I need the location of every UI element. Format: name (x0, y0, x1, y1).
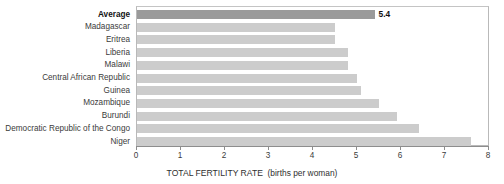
bar (137, 112, 397, 121)
category-label: Niger (110, 137, 130, 146)
category-label: Democratic Republic of the Congo (5, 124, 130, 133)
x-tick-mark (180, 146, 181, 150)
x-axis: 012345678 (136, 146, 489, 147)
x-tick-mark (488, 146, 489, 150)
x-tick-mark (268, 146, 269, 150)
bar (137, 86, 361, 95)
x-tick-mark (356, 146, 357, 150)
bar (137, 124, 419, 133)
category-label: Average (98, 10, 130, 19)
bar (137, 48, 348, 57)
x-tick-mark (224, 146, 225, 150)
plot-area: 5.4 (136, 6, 489, 146)
x-tick-label: 6 (398, 151, 403, 161)
category-label: Guinea (104, 86, 130, 95)
category-label: Eritrea (106, 35, 130, 44)
category-axis-labels: AverageMadagascarEritreaLiberiaMalawiCen… (0, 6, 133, 146)
x-tick-label: 1 (178, 151, 183, 161)
x-tick-label: 3 (266, 151, 271, 161)
x-axis-title: TOTAL FERTILITY RATE (births per woman) (0, 168, 504, 178)
category-label: Central African Republic (42, 73, 130, 82)
category-label: Madagascar (85, 22, 130, 31)
bar (137, 61, 348, 70)
x-tick-mark (444, 146, 445, 150)
x-tick-label: 5 (354, 151, 359, 161)
category-label: Liberia (105, 48, 130, 57)
fertility-rate-bar-chart: AverageMadagascarEritreaLiberiaMalawiCen… (0, 0, 504, 184)
bar (137, 74, 357, 83)
bar-value-label: 5.4 (379, 10, 391, 19)
x-axis-title-main: TOTAL FERTILITY RATE (167, 168, 263, 178)
x-tick-mark (400, 146, 401, 150)
x-tick-mark (312, 146, 313, 150)
x-tick-label: 0 (134, 151, 139, 161)
x-tick-mark (136, 146, 137, 150)
x-tick-label: 8 (486, 151, 491, 161)
x-tick-label: 2 (222, 151, 227, 161)
category-label: Burundi (102, 111, 130, 120)
bar (137, 137, 471, 146)
bar (137, 10, 375, 19)
bar (137, 23, 335, 32)
x-tick-label: 7 (442, 151, 447, 161)
category-label: Malawi (105, 60, 130, 69)
bar (137, 99, 379, 108)
x-axis-title-unit: (births per woman) (268, 168, 338, 178)
x-tick-label: 4 (310, 151, 315, 161)
category-label: Mozambique (83, 98, 130, 107)
bar (137, 35, 335, 44)
